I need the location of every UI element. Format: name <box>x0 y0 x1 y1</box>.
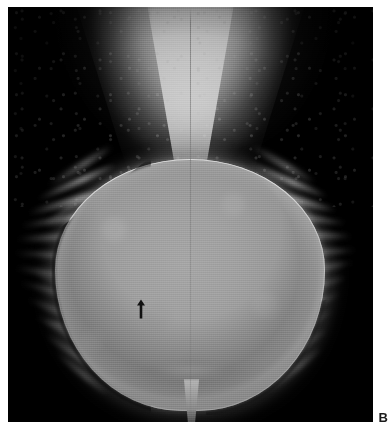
midline-artifact-line <box>190 7 191 422</box>
film-grain <box>8 7 373 422</box>
left-lateral-soft-tissue-cloud <box>12 177 124 392</box>
wisp-strand <box>34 313 117 359</box>
central-mass-halo <box>45 153 335 421</box>
superior-funnel-core <box>148 7 234 167</box>
wisp-strand <box>267 345 324 394</box>
wisp-strand <box>240 206 346 227</box>
wisp-strand <box>14 264 126 288</box>
wisp-strand <box>43 332 113 381</box>
wisp-strand <box>243 183 338 215</box>
wisp-strand <box>34 271 95 304</box>
wisp-strand <box>257 193 317 218</box>
central-mass-rim <box>55 159 325 411</box>
superior-tissue-texture <box>8 7 373 207</box>
wisp-strand <box>42 319 100 335</box>
mass-lucent-crescent-right <box>52 157 328 415</box>
wisp-strand <box>42 191 94 228</box>
wisp-strand <box>238 229 352 240</box>
central-mass <box>55 159 325 411</box>
wisp-strand <box>244 290 341 335</box>
arrow-icon <box>134 298 148 320</box>
wisp-strand <box>36 162 117 202</box>
panel-label: B <box>378 411 388 424</box>
wisp-strand <box>250 308 334 356</box>
mass-lucent-crescent-left <box>52 157 328 415</box>
wisp-strand <box>255 273 324 294</box>
wisp-strand <box>260 308 316 338</box>
wisp-strand <box>20 207 124 229</box>
radiograph-image <box>8 7 373 422</box>
wisp-strand <box>46 143 114 189</box>
right-lateral-wisps <box>238 157 373 407</box>
inferior-tail-region <box>182 379 202 422</box>
wisp-strand <box>16 230 126 243</box>
wisp-strand <box>26 296 120 338</box>
wisp-strand <box>257 327 328 378</box>
film-vignette <box>8 7 373 422</box>
central-mass-texture <box>55 159 325 411</box>
wisp-strand <box>27 184 121 217</box>
wisp-strand <box>246 160 328 199</box>
left-lateral-wisps <box>8 157 138 407</box>
wisp-strand <box>14 250 128 262</box>
superior-right-shoulder-region <box>213 7 365 201</box>
superior-funnel-region <box>66 7 316 213</box>
wisp-strand <box>19 279 123 312</box>
wisp-strand <box>238 259 353 286</box>
wisp-strand <box>238 247 356 261</box>
wisp-strand <box>249 143 317 186</box>
right-lateral-soft-tissue-cloud <box>253 175 371 395</box>
superior-left-shoulder-region <box>22 7 172 191</box>
figure-panel: B <box>0 0 392 430</box>
wisp-strand <box>241 274 348 310</box>
wisp-strand <box>54 350 110 397</box>
inferior-wedge-region <box>121 367 261 401</box>
